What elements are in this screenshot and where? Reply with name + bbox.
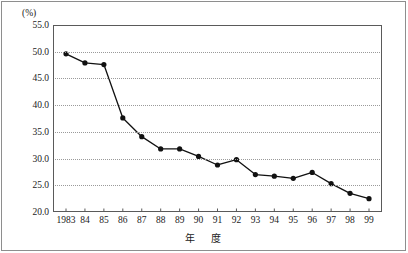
- x-tick-label: 1983: [57, 214, 76, 226]
- chart-figure: (%) 55.050.045.040.035.030.025.020.0 198…: [0, 0, 408, 253]
- y-tick-label: 20.0: [32, 207, 49, 217]
- x-tick-label: 88: [156, 214, 166, 226]
- x-tick-label: 95: [289, 214, 299, 226]
- x-tick-label: 99: [364, 214, 374, 226]
- x-tick-label: 91: [213, 214, 223, 226]
- x-tick-label: 97: [326, 214, 336, 226]
- x-tick-label: 98: [345, 214, 355, 226]
- x-tick-label: 96: [307, 214, 317, 226]
- x-tick-label: 89: [175, 214, 185, 226]
- x-tick-label: 94: [270, 214, 280, 226]
- y-tick-label: 25.0: [32, 180, 49, 190]
- y-tick-label: 40.0: [32, 100, 49, 110]
- x-tick-label: 85: [99, 214, 109, 226]
- y-axis-tick-labels: 55.050.045.040.035.030.025.020.0: [0, 0, 49, 253]
- y-tick-label: 45.0: [32, 73, 49, 83]
- plot-area: [53, 25, 382, 212]
- y-tick-label: 55.0: [32, 20, 49, 30]
- x-tick-label: 93: [251, 214, 261, 226]
- y-tick-label: 35.0: [32, 127, 49, 137]
- x-axis-tick-labels: 198384858687888990919293949596979899: [53, 214, 382, 230]
- x-tick-label: 90: [194, 214, 204, 226]
- x-axis-title: 年 度: [0, 230, 408, 245]
- x-tick-label: 84: [80, 214, 90, 226]
- y-tick-label: 50.0: [32, 47, 49, 57]
- x-tick-label: 92: [232, 214, 242, 226]
- x-tick-label: 86: [118, 214, 128, 226]
- x-tick-label: 87: [137, 214, 147, 226]
- y-tick-label: 30.0: [32, 154, 49, 164]
- plot-border: [53, 25, 382, 212]
